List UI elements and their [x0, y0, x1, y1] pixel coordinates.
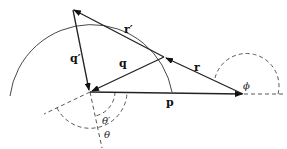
vector-r-prime	[74, 10, 164, 57]
large-circle-arc	[10, 25, 172, 96]
label-r-prime: r′	[124, 23, 133, 36]
label-q-prime: q′	[70, 52, 81, 65]
label-r: r	[194, 61, 200, 74]
label-theta-prime: θ′	[102, 115, 111, 126]
vector-diagram: r′ q′ q r p ϕ θ′ θ	[0, 0, 287, 149]
theta-prime-dashed-arc	[95, 92, 115, 116]
label-q: q	[119, 57, 127, 70]
label-p: p	[166, 96, 174, 109]
label-theta: θ	[104, 129, 110, 140]
theta-dashed-line-down	[90, 92, 102, 148]
vector-p	[90, 92, 242, 94]
theta-dashed-line-left	[44, 92, 90, 114]
vector-q	[92, 57, 164, 91]
theta-dashed-arc	[57, 92, 127, 128]
vector-r	[166, 58, 243, 94]
label-phi: ϕ	[243, 80, 250, 91]
vector-q-prime	[73, 10, 89, 90]
